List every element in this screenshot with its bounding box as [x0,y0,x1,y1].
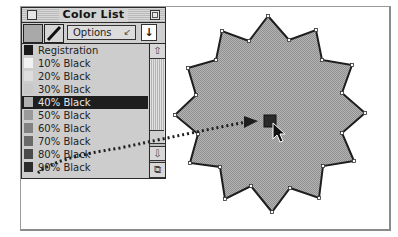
color-swatch [24,123,33,133]
scroll-down-arrow-icon[interactable]: ⇩ [150,146,165,161]
options-label: Options [73,27,112,38]
color-swatch [24,162,33,172]
options-arrow-icon: ↙ [123,26,131,39]
resize-grow-box-icon[interactable]: ⧉ [150,162,165,178]
fill-color-swatch[interactable] [23,24,43,43]
color-item-registration[interactable]: Registration [22,44,148,57]
color-swatch [24,149,33,159]
scroll-track[interactable] [150,59,165,144]
color-swatch [24,58,33,68]
color-item-10-black[interactable]: 10% Black [22,57,148,70]
close-box-icon[interactable] [27,10,37,20]
zoom-box-icon[interactable] [150,10,160,20]
palette-titlebar[interactable]: Color List [22,8,165,23]
color-item-70-black[interactable]: 70% Black [22,135,148,148]
color-item-20-black[interactable]: 20% Black [22,70,148,83]
scroll-up-arrow-icon[interactable]: ⇧ [150,44,165,59]
color-list: Registration 10% Black 20% Black 30% Bla… [22,44,148,178]
sort-button[interactable]: ↓ [141,24,157,41]
color-swatch [24,110,33,120]
color-item-90-black[interactable]: 90% Black [22,161,148,174]
color-swatch [24,84,33,94]
color-swatch [24,97,33,107]
star-shape[interactable] [175,16,365,212]
color-swatch [24,71,33,81]
color-item-80-black[interactable]: 80% Black [22,148,148,161]
sort-arrow-icon: ↓ [144,26,153,39]
color-swatch [24,45,33,55]
color-item-60-black[interactable]: 60% Black [22,122,148,135]
palette-toolbar: Options ↙ ↓ [22,23,165,44]
color-item-30-black[interactable]: 30% Black [22,83,148,96]
color-item-40-black[interactable]: 40% Black [22,96,148,109]
color-list-palette: Color List Options ↙ ↓ Registration 10% … [21,7,166,179]
stroke-pen-icon [45,25,63,42]
scroll-thumb[interactable] [150,130,164,143]
color-swatch [24,136,33,146]
options-menu-button[interactable]: Options ↙ [67,25,136,40]
color-item-50-black[interactable]: 50% Black [22,109,148,122]
palette-title: Color List [59,8,129,22]
color-list-scrollbar[interactable]: ⇧ ⇩ ⧉ [149,44,165,178]
stroke-button[interactable] [44,24,64,43]
